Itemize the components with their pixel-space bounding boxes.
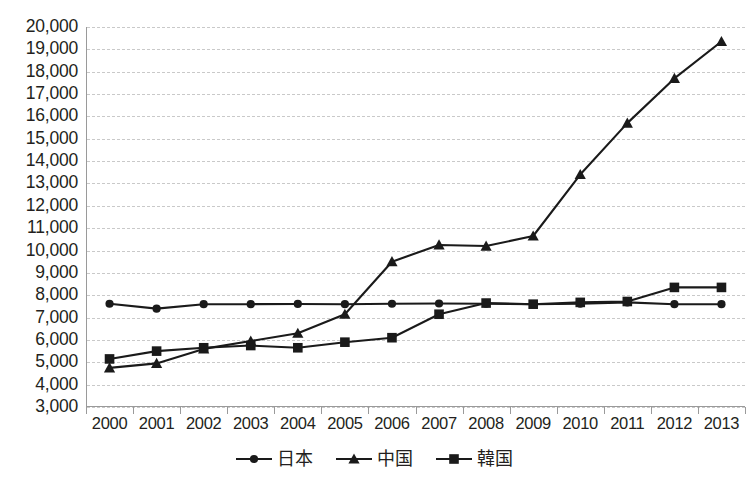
gridline (87, 27, 745, 28)
y-axis-tick-label: 9,000 (0, 264, 78, 282)
x-axis-tick-mark (368, 407, 369, 414)
x-axis-tick-mark (557, 407, 558, 414)
gridline (87, 161, 745, 162)
x-axis-tick-mark (86, 407, 87, 414)
x-axis-tick-label: 2013 (704, 414, 740, 433)
x-axis-tick-mark (698, 407, 699, 414)
y-axis-tick-label: 6,000 (0, 331, 78, 349)
gridline (87, 116, 745, 117)
gridline (87, 318, 745, 319)
legend-marker-triangle-icon (334, 450, 374, 468)
chart-legend: 日本中国韓国 (0, 450, 746, 468)
x-axis-tick-mark (321, 407, 322, 414)
y-axis-tick-label: 18,000 (0, 63, 78, 81)
x-axis-tick-label: 2012 (657, 414, 693, 433)
x-axis-tick-mark (274, 407, 275, 414)
x-axis-tick-mark (180, 407, 181, 414)
legend-item[interactable]: 日本 (234, 450, 313, 468)
y-axis-tick-label: 16,000 (0, 108, 78, 126)
y-axis-tick-label: 10,000 (0, 242, 78, 260)
y-axis-tick-label: 3,000 (0, 398, 78, 416)
y-axis-tick-label: 15,000 (0, 130, 78, 148)
y-axis-tick-label: 17,000 (0, 85, 78, 103)
gridline (87, 251, 745, 252)
x-axis-tick-mark (227, 407, 228, 414)
x-axis-tick-label: 2001 (139, 414, 175, 433)
gridline (87, 362, 745, 363)
x-axis-tick-label: 2007 (421, 414, 457, 433)
y-axis-tick-label: 12,000 (0, 197, 78, 215)
x-axis-tick-mark (416, 407, 417, 414)
x-axis-tick-label: 2000 (92, 414, 128, 433)
x-axis-tick-label: 2009 (515, 414, 551, 433)
y-axis-tick-label: 8,000 (0, 286, 78, 304)
legend-label: 韓国 (477, 450, 513, 468)
gridline (87, 139, 745, 140)
gridline (87, 340, 745, 341)
data-point-marker (249, 455, 257, 463)
gridline (87, 295, 745, 296)
gridline (87, 183, 745, 184)
legend-label: 中国 (377, 450, 413, 468)
gridline (87, 228, 745, 229)
y-axis-tick-label: 11,000 (0, 219, 78, 237)
x-axis-tick-label: 2004 (280, 414, 316, 433)
x-axis-tick-label: 2008 (468, 414, 504, 433)
y-axis-tick-label: 20,000 (0, 18, 78, 36)
gridline (87, 273, 745, 274)
gridline (87, 94, 745, 95)
legend-item[interactable]: 韓国 (434, 450, 513, 468)
x-axis-tick-mark (133, 407, 134, 414)
data-point-marker (449, 454, 459, 464)
x-axis-tick-label: 2011 (610, 414, 644, 433)
x-axis-tick-label: 2010 (562, 414, 598, 433)
x-axis-tick-label: 2006 (374, 414, 410, 433)
x-axis-tick-mark (604, 407, 605, 414)
x-axis-tick-label: 2003 (233, 414, 269, 433)
y-axis-tick-label: 4,000 (0, 376, 78, 394)
line-chart: 20,00019,00018,00017,00016,00015,00014,0… (0, 0, 746, 482)
legend-marker-circle-icon (234, 450, 274, 468)
y-axis-tick-label: 13,000 (0, 175, 78, 193)
gridline (87, 49, 745, 50)
x-axis-tick-mark (651, 407, 652, 414)
y-axis-tick-label: 7,000 (0, 309, 78, 327)
legend-label: 日本 (277, 450, 313, 468)
y-axis-tick-label: 5,000 (0, 354, 78, 372)
x-axis-tick-mark (463, 407, 464, 414)
x-axis-tick-mark (510, 407, 511, 414)
x-axis-tick-label: 2005 (327, 414, 363, 433)
gridline (87, 385, 745, 386)
plot-area (86, 27, 745, 407)
x-axis-tick-label: 2002 (186, 414, 222, 433)
legend-item[interactable]: 中国 (334, 450, 413, 468)
gridline (87, 72, 745, 73)
legend-marker-square-icon (434, 450, 474, 468)
gridline (87, 206, 745, 207)
y-axis-tick-label: 19,000 (0, 41, 78, 59)
y-axis-tick-label: 14,000 (0, 152, 78, 170)
